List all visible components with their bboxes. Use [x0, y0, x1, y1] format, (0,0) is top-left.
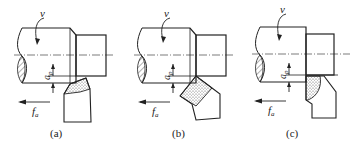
feed-label-sub: a [155, 111, 159, 119]
depth-label-main: a [277, 74, 288, 79]
feed-label-sub: a [35, 111, 39, 119]
workpiece-section-hatch [138, 56, 146, 83]
tool-insert [306, 76, 321, 100]
feed-label: fa [268, 105, 275, 118]
velocity-label: v [280, 4, 285, 15]
depth-label-sub: p [282, 71, 290, 75]
velocity-label: v [164, 8, 169, 19]
depth-of-cut-label: ap [162, 72, 174, 81]
tool-insert [180, 76, 212, 106]
depth-label-main: a [41, 75, 52, 80]
panel-caption: (c) [286, 128, 298, 139]
depth-label-sub: p [166, 72, 174, 76]
depth-of-cut-label: ap [42, 72, 54, 81]
tool-insert [64, 78, 90, 94]
workpiece-section-hatch [18, 56, 26, 83]
panel-caption: (b) [172, 128, 185, 139]
depth-label-sub: p [46, 72, 54, 76]
panel-a: v ap fa (a) [0, 0, 121, 154]
feed-label-sub: a [271, 110, 275, 118]
feed-label: fa [32, 106, 39, 119]
panel-b: v ap fa (b) [120, 0, 241, 154]
feed-label: fa [152, 106, 159, 119]
depth-label-main: a [161, 75, 172, 80]
workpiece-section-hatch [256, 55, 264, 82]
turning-diagram-c [240, 0, 362, 154]
velocity-label: v [40, 8, 45, 19]
panel-caption: (a) [50, 128, 62, 139]
panel-c: v ap fa (c) [240, 0, 361, 154]
depth-of-cut-label: ap [278, 71, 290, 80]
